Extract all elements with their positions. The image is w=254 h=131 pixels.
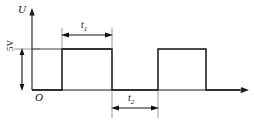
t2-dimension-group: [111, 89, 159, 118]
t1-label-subscript: 1: [84, 25, 88, 33]
origin-label: O: [35, 92, 43, 103]
t2-label-subscript: 2: [131, 98, 135, 106]
t2-label: t2: [128, 93, 134, 106]
square-wave-trace: [32, 49, 240, 90]
amplitude-arrowhead-down: [20, 84, 25, 91]
amplitude-label: 5V: [6, 40, 15, 51]
waveform-figure: U t O 5V t1 t2: [0, 0, 254, 131]
t1-label: t1: [81, 20, 87, 33]
amplitude-dimension-group: [14, 48, 40, 91]
y-axis-label: U: [18, 4, 26, 15]
waveform-canvas: [0, 0, 254, 131]
x-axis-label: t: [240, 84, 243, 95]
y-axis-arrowhead: [29, 8, 34, 16]
